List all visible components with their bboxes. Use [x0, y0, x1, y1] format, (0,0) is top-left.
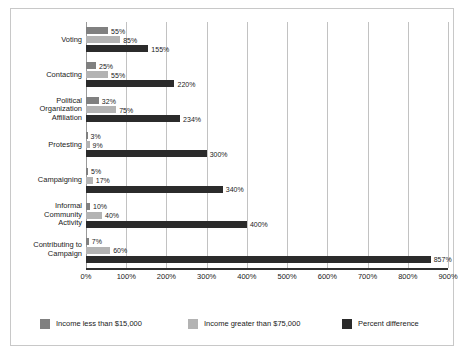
bar	[86, 115, 180, 122]
bar-value-label: 340%	[223, 186, 244, 193]
bar	[86, 62, 96, 69]
bar-value-label: 32%	[99, 97, 116, 104]
bar	[86, 80, 174, 87]
legend-swatch-icon	[342, 319, 352, 329]
bar-value-label: 234%	[180, 115, 201, 122]
bar	[86, 247, 110, 254]
bar-group: 10%40%400%	[86, 198, 448, 233]
gridline	[448, 22, 449, 268]
plot-area: 55%85%155%25%55%220%32%75%234%3%9%300%5%…	[86, 22, 448, 268]
bar-value-label: 5%	[88, 168, 101, 175]
bar-group: 32%75%234%	[86, 92, 448, 127]
bar-value-label: 25%	[96, 62, 113, 69]
bar-value-label: 857%	[431, 256, 452, 263]
bar-group: 5%17%340%	[86, 163, 448, 198]
x-tick-label: 0%	[81, 272, 92, 281]
category-label: Contacting	[8, 70, 82, 79]
legend-label: Income less than $15,000	[56, 319, 142, 329]
category-axis-labels: VotingContactingPoliticalOrganizationAff…	[4, 22, 82, 268]
x-tick-label: 400%	[237, 272, 256, 281]
category-label: Contributing toCampaign	[8, 242, 82, 259]
category-label: Voting	[8, 35, 82, 44]
x-tick-label: 200%	[157, 272, 176, 281]
bar-value-label: 55%	[108, 27, 125, 34]
x-tick-label: 800%	[398, 272, 417, 281]
x-tick-label: 500%	[278, 272, 297, 281]
bar-value-label: 55%	[108, 71, 125, 78]
bar-value-label: 10%	[90, 203, 107, 210]
x-tick-label: 100%	[117, 272, 136, 281]
legend-swatch-icon	[40, 319, 50, 329]
bar-value-label: 40%	[102, 212, 119, 219]
legend-label: Income greater than $75,000	[204, 319, 300, 329]
legend-label: Percent difference	[358, 319, 419, 329]
bar	[86, 186, 223, 193]
bar-value-label: 7%	[89, 238, 102, 245]
bar	[86, 212, 102, 219]
bar-value-label: 17%	[93, 177, 110, 184]
bar	[86, 256, 431, 263]
chart-figure: 55%85%155%25%55%220%32%75%234%3%9%300%5%…	[0, 0, 465, 358]
bar-value-label: 155%	[148, 45, 169, 52]
bar-value-label: 3%	[88, 132, 101, 139]
legend-item[interactable]: Income greater than $75,000	[188, 319, 300, 329]
bar-value-label: 75%	[116, 106, 133, 113]
category-label: Protesting	[8, 141, 82, 150]
category-label: InformalCommunityActivity	[8, 202, 82, 228]
bar-value-label: 9%	[90, 141, 103, 148]
bar-value-label: 85%	[120, 36, 137, 43]
bar-value-label: 300%	[207, 150, 228, 157]
legend-item[interactable]: Percent difference	[342, 319, 419, 329]
bar-group: 25%55%220%	[86, 57, 448, 92]
bar-value-label: 60%	[110, 247, 127, 254]
bar	[86, 106, 116, 113]
bar-group: 3%9%300%	[86, 127, 448, 162]
x-tick-label: 700%	[358, 272, 377, 281]
bar	[86, 71, 108, 78]
bar	[86, 45, 148, 52]
bar	[86, 27, 108, 34]
bar	[86, 221, 247, 228]
bar-group: 55%85%155%	[86, 22, 448, 57]
bar	[86, 36, 120, 43]
x-tick-label: 300%	[197, 272, 216, 281]
legend-item[interactable]: Income less than $15,000	[40, 319, 142, 329]
bar-value-label: 220%	[174, 80, 195, 87]
bar-value-label: 400%	[247, 221, 268, 228]
x-axis-line	[86, 268, 448, 270]
bar	[86, 177, 93, 184]
chart-legend: Income less than $15,000Income greater t…	[40, 319, 440, 335]
x-tick-labels: 0%100%200%300%400%500%600%700%800%900%	[86, 272, 448, 286]
legend-swatch-icon	[188, 319, 198, 329]
bar	[86, 150, 207, 157]
category-label: Campaigning	[8, 176, 82, 185]
category-label: PoliticalOrganizationAffiliation	[8, 97, 82, 123]
x-tick-label: 900%	[438, 272, 457, 281]
x-tick-label: 600%	[318, 272, 337, 281]
bar-group: 7%60%857%	[86, 233, 448, 268]
bar	[86, 97, 99, 104]
